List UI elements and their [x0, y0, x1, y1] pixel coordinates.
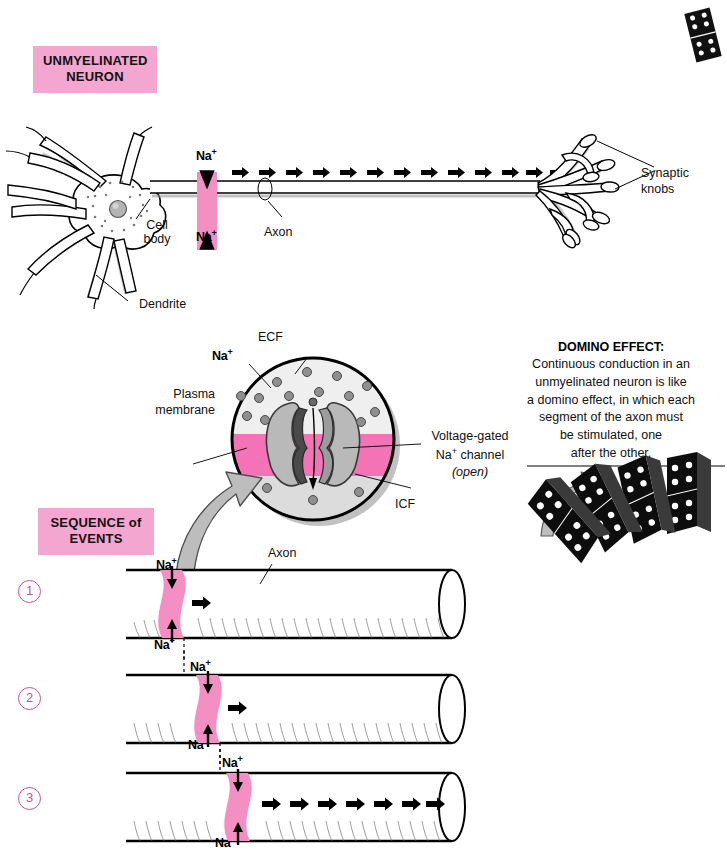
banner-line-1: UNMYELINATED [43, 53, 148, 68]
step2-propagation-arrow [228, 702, 247, 715]
ecf-label: ECF [258, 330, 283, 344]
na-label-axon-top: Na+ [196, 147, 217, 163]
falling-dominoes-illustration [527, 440, 725, 565]
cell-body-label: Cell body [134, 218, 180, 247]
synaptic-knobs-line1: Synaptic [641, 166, 689, 180]
step-number-3: 3 [18, 787, 41, 810]
channel-label-line2: Na+ channel [436, 448, 505, 462]
domino-body-line-2: unmyelinated neuron is like [497, 374, 725, 392]
sequence-banner-line2: EVENTS [69, 531, 122, 546]
step-number-1: 1 [18, 580, 41, 603]
synaptic-knobs-label: Synaptic knobs [641, 165, 721, 198]
cell-body-label-line1: Cell [146, 218, 168, 232]
cell-body-label-line2: body [143, 232, 170, 246]
sequence-step-3 [120, 763, 480, 848]
domino-tile-4 [667, 452, 711, 534]
icf-label: ICF [395, 497, 415, 511]
plasma-membrane-label: Plasma membrane [143, 386, 215, 419]
sequence-step-1 [120, 560, 480, 645]
plasma-membrane-line1: Plasma [173, 387, 215, 401]
sequence-axon-label: Axon [268, 546, 297, 560]
sequence-step-2 [120, 665, 480, 750]
na-label-axon-bottom: Na+ [196, 228, 217, 244]
domino-body-line-3: a domino effect, in which each [497, 392, 725, 410]
step3-propagation-arrow-row [262, 798, 445, 811]
nucleus [110, 201, 127, 218]
domino-body-line-4: segment of the axon must [497, 409, 725, 427]
sequence-banner-line1: SEQUENCE of [50, 515, 141, 530]
unmyelinated-neuron-banner: UNMYELINATED NEURON [33, 46, 157, 93]
domino-effect-heading: DOMINO EFFECT: [497, 340, 725, 354]
banner-line-2: NEURON [66, 69, 124, 84]
axon-label: Axon [264, 225, 293, 239]
na-ecf-label: Na+ [212, 347, 233, 363]
channel-label-line3: (open) [452, 465, 488, 479]
dendrite-label: Dendrite [139, 297, 186, 311]
corner-domino-decoration [681, 6, 725, 64]
plasma-membrane-line2: membrane [155, 403, 215, 417]
step-number-2: 2 [18, 687, 41, 710]
synaptic-knobs-line2: knobs [641, 182, 674, 196]
domino-body-line-1: Continuous conduction in an [497, 356, 725, 374]
whole-neuron-diagram [0, 125, 727, 310]
impulse-arrow-row [232, 167, 567, 178]
axon-terminals [536, 139, 611, 239]
sequence-of-events-banner: SEQUENCE of EVENTS [38, 508, 154, 555]
